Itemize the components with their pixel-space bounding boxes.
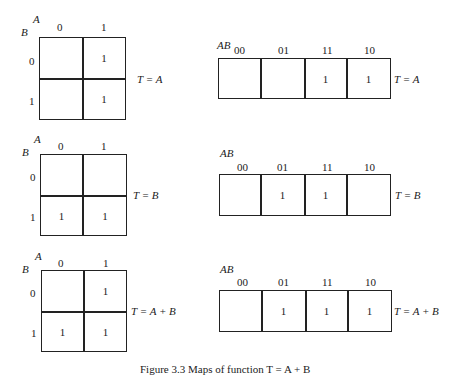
map-cell: 1 bbox=[305, 175, 346, 215]
function-label: T = A bbox=[394, 73, 419, 85]
col-var-label: A bbox=[34, 134, 41, 145]
col-label: 00 bbox=[234, 45, 245, 56]
map-cell bbox=[40, 79, 82, 119]
map-cell bbox=[261, 59, 304, 98]
var-label: AB bbox=[220, 264, 233, 275]
map-cell bbox=[220, 175, 260, 215]
col-var-label: A bbox=[35, 251, 42, 262]
map-cell bbox=[84, 155, 126, 195]
col-label-0: 0 bbox=[58, 141, 64, 152]
map-cell: 1 bbox=[305, 59, 346, 98]
map-cell bbox=[42, 271, 83, 311]
map-cell: 1 bbox=[83, 38, 125, 78]
map-cell: 1 bbox=[262, 291, 305, 331]
col-var-label: A bbox=[33, 14, 40, 25]
map-cell: 1 bbox=[85, 312, 126, 351]
col-label: 10 bbox=[364, 162, 375, 173]
row-label-1: 1 bbox=[29, 96, 35, 107]
col-label-1: 1 bbox=[101, 22, 107, 33]
function-label: T = B bbox=[395, 189, 421, 201]
row-var-label: B bbox=[21, 27, 28, 38]
col-label-1: 1 bbox=[103, 258, 109, 269]
function-label: T = A + B bbox=[131, 305, 176, 317]
col-label-1: 1 bbox=[101, 141, 107, 152]
map-cell bbox=[219, 59, 260, 98]
row-label-1: 1 bbox=[31, 328, 37, 339]
map-cell: 1 bbox=[85, 271, 126, 311]
figure-caption: Figure 3.3 Maps of function T = A + B bbox=[140, 363, 310, 375]
col-label: 11 bbox=[322, 277, 333, 288]
col-label-0: 0 bbox=[57, 22, 63, 33]
map-cell: 1 bbox=[348, 291, 391, 331]
function-label: T = B bbox=[133, 189, 159, 201]
col-label: 00 bbox=[237, 277, 248, 288]
map-cell bbox=[40, 38, 82, 78]
var-label: AB bbox=[217, 40, 230, 51]
map-cell: 1 bbox=[347, 59, 390, 98]
col-label: 10 bbox=[365, 277, 376, 288]
col-label: 10 bbox=[364, 45, 375, 56]
map-cell: 1 bbox=[84, 196, 126, 235]
col-label: 01 bbox=[277, 162, 288, 173]
row-label-0: 0 bbox=[30, 288, 36, 299]
map-cell: 1 bbox=[306, 291, 347, 331]
map-cell bbox=[41, 155, 82, 195]
col-label-0: 0 bbox=[58, 258, 64, 269]
function-label: T = A bbox=[137, 73, 162, 85]
function-label: T = A + B bbox=[394, 305, 439, 317]
col-label: 01 bbox=[278, 277, 289, 288]
col-label: 11 bbox=[322, 45, 333, 56]
row-label-0: 0 bbox=[29, 56, 35, 67]
col-label: 01 bbox=[278, 45, 289, 56]
row-label-0: 0 bbox=[30, 172, 36, 183]
map-cell: 1 bbox=[42, 312, 83, 351]
row-var-label: B bbox=[22, 264, 29, 275]
col-label: 11 bbox=[322, 162, 333, 173]
map-cell: 1 bbox=[83, 79, 125, 119]
row-label-1: 1 bbox=[30, 212, 36, 223]
row-var-label: B bbox=[22, 147, 29, 158]
var-label: AB bbox=[220, 148, 233, 159]
map-cell: 1 bbox=[41, 196, 82, 235]
map-cell: 1 bbox=[261, 175, 304, 215]
col-label: 00 bbox=[237, 162, 248, 173]
map-cell bbox=[220, 291, 261, 331]
map-cell bbox=[347, 175, 390, 215]
